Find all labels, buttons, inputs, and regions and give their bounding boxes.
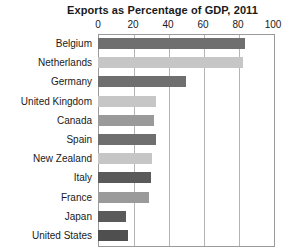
bar — [98, 172, 151, 183]
category-label: Italy — [0, 168, 95, 187]
bar-chart: Exports as Percentage of GDP, 2011 02040… — [0, 0, 299, 251]
bar — [98, 38, 245, 49]
bar — [98, 153, 152, 164]
x-tick-label: 80 — [232, 19, 243, 30]
category-label: Spain — [0, 130, 95, 149]
category-label: Canada — [0, 111, 95, 130]
bar-row — [98, 92, 273, 111]
bar-row — [98, 168, 273, 187]
category-label: Belgium — [0, 34, 95, 53]
x-tick-label: 40 — [162, 19, 173, 30]
category-label: Japan — [0, 207, 95, 226]
bar — [98, 57, 243, 68]
category-label: France — [0, 187, 95, 206]
x-tick-label: 100 — [265, 19, 282, 30]
x-tick-label: 20 — [127, 19, 138, 30]
bar-row — [98, 149, 273, 168]
bar — [98, 76, 186, 87]
bar — [98, 211, 126, 222]
bar-row — [98, 226, 273, 245]
bars-layer — [98, 34, 273, 245]
bar-row — [98, 130, 273, 149]
chart-title: Exports as Percentage of GDP, 2011 — [0, 4, 299, 16]
bar — [98, 134, 156, 145]
bar-row — [98, 111, 273, 130]
category-label: Netherlands — [0, 53, 95, 72]
bar-row — [98, 53, 273, 72]
category-labels: BelgiumNetherlandsGermanyUnited KingdomC… — [0, 34, 95, 245]
category-label: United Kingdom — [0, 92, 95, 111]
category-label: New Zealand — [0, 149, 95, 168]
bar — [98, 96, 156, 107]
x-tick-label: 60 — [197, 19, 208, 30]
bar-row — [98, 34, 273, 53]
x-tick-label: 0 — [95, 19, 101, 30]
bar-row — [98, 72, 273, 91]
bar — [98, 230, 128, 241]
x-axis-tick-labels: 020406080100 — [0, 19, 299, 33]
bar-row — [98, 207, 273, 226]
bar — [98, 192, 149, 203]
bar-row — [98, 187, 273, 206]
category-label: United States — [0, 226, 95, 245]
bar — [98, 115, 154, 126]
category-label: Germany — [0, 72, 95, 91]
